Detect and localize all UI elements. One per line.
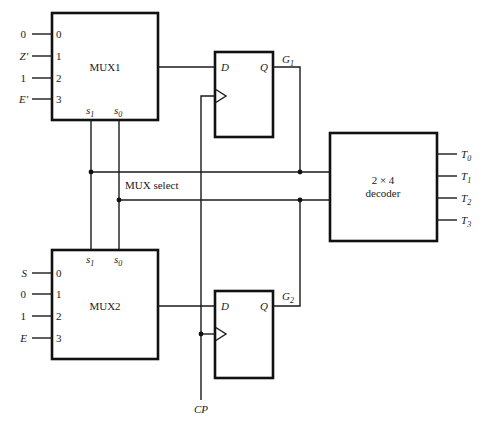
mux1-pin-3: 3 <box>56 93 62 105</box>
decoder-output-t0: T0 <box>461 148 471 163</box>
mux2: MUX2 S 0 1 E 0 1 2 3 s1 s0 <box>19 250 158 359</box>
mux2-pin-2: 2 <box>56 310 62 322</box>
mux2-input-3-signal: E <box>19 332 27 344</box>
g1-wire <box>273 67 300 172</box>
mux1-pin-1: 1 <box>56 50 62 62</box>
mux1-input-2-signal: 1 <box>21 72 27 84</box>
clock-label: CP <box>194 403 208 415</box>
decoder: 2 × 4 decoder T0 T1 T2 T3 <box>330 133 471 241</box>
ff1-q-label: Q <box>260 61 268 73</box>
mux2-label: MUX2 <box>89 300 120 312</box>
mux2-pin-1: 1 <box>56 288 62 300</box>
mux1-input-1-signal: Z' <box>20 50 29 62</box>
decoder-output-t3: T3 <box>461 214 471 229</box>
mux1-pin-0: 0 <box>56 28 62 40</box>
mux2-pin-3: 3 <box>56 332 62 344</box>
ff1-output-label: G1 <box>282 53 294 68</box>
mux2-input-2-signal: 1 <box>21 310 27 322</box>
ff2-output-label: G2 <box>282 290 294 305</box>
mux1-label: MUX1 <box>89 61 120 73</box>
flip-flop-2: D Q G2 <box>215 290 294 378</box>
circuit-diagram: MUX1 0 Z' 1 E' 0 1 2 3 s1 s0 MUX2 S 0 1 … <box>0 0 488 422</box>
mux1-input-0-signal: 0 <box>21 28 27 40</box>
mux2-pin-0: 0 <box>56 267 62 279</box>
decoder-output-t1: T1 <box>461 170 471 185</box>
decoder-size-label: 2 × 4 <box>372 174 395 186</box>
ff2-q-label: Q <box>260 300 268 312</box>
clock-wire <box>201 96 215 400</box>
mux2-input-0-signal: S <box>22 267 28 279</box>
mux1: MUX1 0 Z' 1 E' 0 1 2 3 s1 s0 <box>18 13 158 120</box>
decoder-label: decoder <box>366 187 401 199</box>
flip-flop-1: D Q G1 <box>215 52 294 137</box>
mux2-input-1-signal: 0 <box>21 288 27 300</box>
mux1-pin-2: 2 <box>56 72 62 84</box>
ff1-d-label: D <box>220 61 229 73</box>
ff2-d-label: D <box>220 300 229 312</box>
mux-select-label: MUX select <box>125 179 178 191</box>
mux1-input-3-signal: E' <box>18 93 29 105</box>
decoder-output-t2: T2 <box>461 192 471 207</box>
